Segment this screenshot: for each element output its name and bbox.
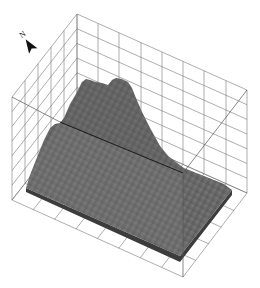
terrain-surface <box>26 78 232 262</box>
north-label: N <box>18 29 28 40</box>
north-arrow: N <box>16 28 37 54</box>
terrain-3d-figure: N <box>0 0 260 288</box>
